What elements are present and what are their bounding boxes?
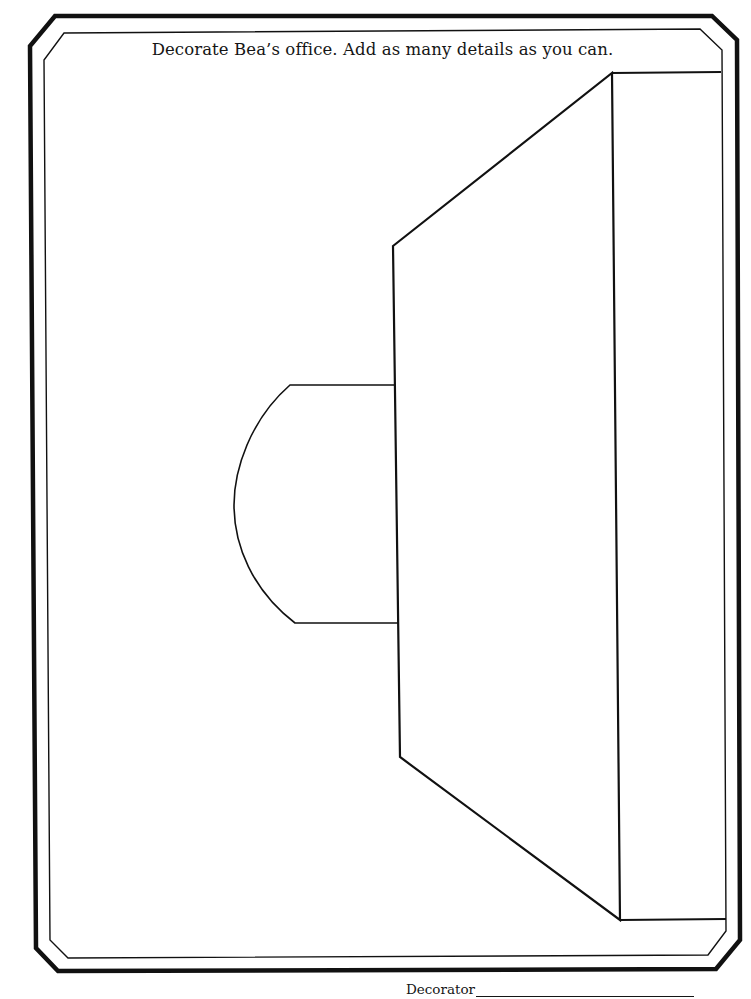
outer-border (30, 16, 740, 971)
inner-border (44, 29, 726, 958)
back-panel[interactable] (612, 72, 721, 73)
worksheet-page: Decorate Bea’s office. Add as many detai… (0, 0, 751, 999)
desk-half-round[interactable] (234, 385, 398, 623)
decorator-label: Decorator (406, 981, 475, 997)
office-drawing[interactable] (0, 0, 751, 999)
decorator-signature: Decorator (406, 977, 694, 997)
decorator-name-field[interactable] (476, 982, 694, 997)
instruction-text: Decorate Bea’s office. Add as many detai… (152, 40, 614, 59)
desk-top[interactable] (393, 73, 620, 920)
back-panel-bottom (620, 919, 726, 920)
instruction-heading: Decorate Bea’s office. Add as many detai… (0, 40, 751, 59)
